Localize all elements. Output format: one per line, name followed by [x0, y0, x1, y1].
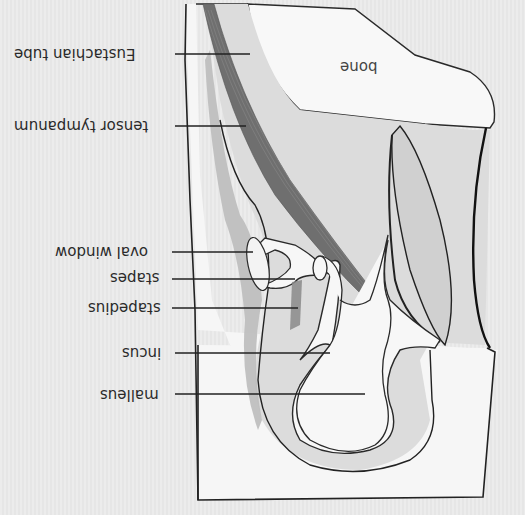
stapes-head [313, 256, 327, 280]
label-oval-window: oval window [55, 244, 148, 259]
label-malleus: malleus [100, 387, 159, 402]
label-tensor-tympanum: tensor tympanum [14, 118, 148, 133]
label-bone: bone [340, 59, 377, 74]
label-incus: incus [122, 345, 161, 360]
label-stapedius: stapedius [88, 300, 161, 315]
label-eustachian-tube: Eustachian tube [14, 46, 135, 61]
label-stapes: stapes [110, 270, 159, 285]
middle-ear-diagram: Eustachian tube tensor tympanum oval win… [0, 0, 525, 515]
